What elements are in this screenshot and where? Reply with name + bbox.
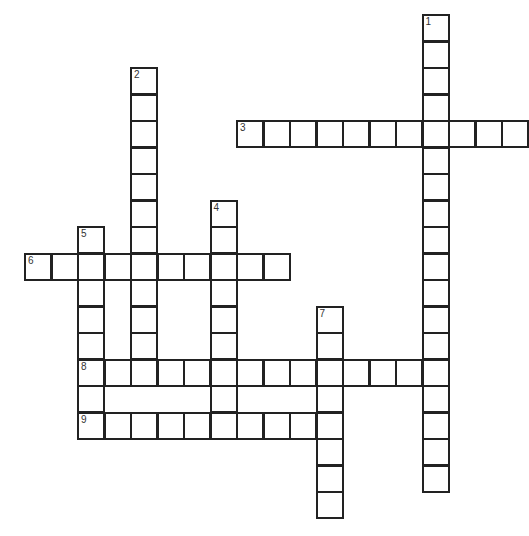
crossword-cell[interactable] — [448, 120, 476, 148]
crossword-cell[interactable] — [236, 253, 264, 281]
crossword-cell[interactable] — [422, 412, 450, 440]
crossword-cell[interactable]: 4 — [210, 200, 238, 228]
crossword-cell[interactable] — [316, 385, 344, 413]
crossword-cell[interactable] — [263, 359, 291, 387]
crossword-cell[interactable] — [183, 253, 211, 281]
crossword-cell[interactable] — [236, 359, 264, 387]
crossword-cell[interactable]: 6 — [24, 253, 52, 281]
crossword-cell[interactable] — [130, 147, 158, 175]
crossword-cell[interactable] — [130, 279, 158, 307]
crossword-cell[interactable] — [77, 253, 105, 281]
crossword-cell[interactable] — [263, 120, 291, 148]
crossword-cell[interactable] — [316, 120, 344, 148]
crossword-cell[interactable] — [263, 253, 291, 281]
crossword-cell[interactable] — [51, 253, 79, 281]
crossword-cell[interactable] — [157, 359, 185, 387]
crossword-cell[interactable] — [183, 412, 211, 440]
crossword-cell[interactable] — [316, 438, 344, 466]
crossword-cell[interactable] — [316, 359, 344, 387]
crossword-cell[interactable] — [289, 120, 317, 148]
crossword-cell[interactable] — [422, 94, 450, 122]
crossword-cell[interactable] — [130, 120, 158, 148]
crossword-cell[interactable]: 9 — [77, 412, 105, 440]
clue-number: 5 — [81, 228, 87, 239]
crossword-cell[interactable] — [183, 359, 211, 387]
crossword-cell[interactable] — [77, 306, 105, 334]
clue-number: 8 — [81, 361, 87, 372]
crossword-cell[interactable] — [422, 438, 450, 466]
crossword-cell[interactable] — [77, 385, 105, 413]
crossword-cell[interactable] — [210, 385, 238, 413]
crossword-cell[interactable] — [289, 412, 317, 440]
crossword-cell[interactable] — [422, 253, 450, 281]
clue-number: 7 — [320, 308, 326, 319]
crossword-cell[interactable] — [77, 279, 105, 307]
crossword-cell[interactable]: 2 — [130, 67, 158, 95]
crossword-cell[interactable] — [104, 253, 132, 281]
crossword-cell[interactable] — [395, 359, 423, 387]
crossword-cell[interactable] — [422, 67, 450, 95]
crossword-cell[interactable] — [316, 491, 344, 519]
crossword-cell[interactable] — [210, 332, 238, 360]
crossword-cell[interactable] — [210, 226, 238, 254]
clue-number: 4 — [214, 202, 220, 213]
clue-number: 9 — [81, 414, 87, 425]
crossword-cell[interactable] — [210, 279, 238, 307]
crossword-cell[interactable] — [157, 253, 185, 281]
crossword-cell[interactable]: 5 — [77, 226, 105, 254]
crossword-cell[interactable] — [236, 412, 264, 440]
crossword-cell[interactable] — [263, 412, 291, 440]
crossword-cell[interactable] — [316, 332, 344, 360]
crossword-cell[interactable] — [157, 412, 185, 440]
crossword-cell[interactable]: 1 — [422, 14, 450, 42]
crossword-cell[interactable] — [395, 120, 423, 148]
crossword-cell[interactable] — [130, 306, 158, 334]
crossword-cell[interactable] — [342, 120, 370, 148]
crossword-cell[interactable] — [289, 359, 317, 387]
crossword-cell[interactable]: 3 — [236, 120, 264, 148]
crossword-cell[interactable] — [422, 173, 450, 201]
crossword-cell[interactable]: 8 — [77, 359, 105, 387]
crossword-cell[interactable] — [422, 306, 450, 334]
crossword-cell[interactable] — [130, 173, 158, 201]
crossword-cell[interactable]: 7 — [316, 306, 344, 334]
crossword-cell[interactable] — [422, 279, 450, 307]
crossword-cell[interactable] — [316, 465, 344, 493]
crossword-cell[interactable] — [422, 200, 450, 228]
crossword-cell[interactable] — [475, 120, 503, 148]
crossword-cell[interactable] — [104, 359, 132, 387]
crossword-cell[interactable] — [210, 253, 238, 281]
crossword-cell[interactable] — [422, 359, 450, 387]
crossword-cell[interactable] — [369, 359, 397, 387]
clue-number: 6 — [28, 255, 34, 266]
clue-number: 3 — [240, 122, 246, 133]
crossword-cell[interactable] — [342, 359, 370, 387]
crossword-cell[interactable] — [422, 385, 450, 413]
crossword-cell[interactable] — [130, 200, 158, 228]
crossword-cell[interactable] — [422, 41, 450, 69]
crossword-cell[interactable] — [316, 412, 344, 440]
crossword-cell[interactable] — [369, 120, 397, 148]
clue-number: 2 — [134, 69, 140, 80]
crossword-cell[interactable] — [422, 332, 450, 360]
crossword-cell[interactable] — [422, 465, 450, 493]
crossword-cell[interactable] — [77, 332, 105, 360]
crossword-cell[interactable] — [130, 253, 158, 281]
crossword-cell[interactable] — [104, 412, 132, 440]
crossword-cell[interactable] — [501, 120, 529, 148]
crossword-cell[interactable] — [210, 412, 238, 440]
crossword-cell[interactable] — [422, 226, 450, 254]
clue-number: 1 — [426, 16, 432, 27]
crossword-cell[interactable] — [130, 226, 158, 254]
crossword-cell[interactable] — [422, 147, 450, 175]
crossword-cell[interactable] — [210, 306, 238, 334]
crossword-cell[interactable] — [210, 359, 238, 387]
crossword-cell[interactable] — [130, 359, 158, 387]
crossword-cell[interactable] — [422, 120, 450, 148]
crossword-cell[interactable] — [130, 332, 158, 360]
crossword-cell[interactable] — [130, 412, 158, 440]
crossword-cell[interactable] — [130, 94, 158, 122]
